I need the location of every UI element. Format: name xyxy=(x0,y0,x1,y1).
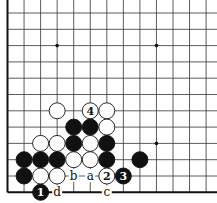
point-label-b: b xyxy=(70,169,78,183)
black-stone xyxy=(66,135,82,151)
move-number: 3 xyxy=(120,170,128,183)
white-stone-icon xyxy=(49,168,65,184)
white-stone-icon xyxy=(66,152,82,168)
white-stone-icon xyxy=(99,119,115,135)
white-stone-2: 2 xyxy=(99,168,115,184)
white-stone xyxy=(66,152,82,168)
white-stone xyxy=(49,135,65,151)
black-stone-icon xyxy=(99,152,115,168)
white-stone-icon xyxy=(82,152,98,168)
white-stone-icon xyxy=(33,168,49,184)
point-label-d: d xyxy=(53,185,61,199)
point-label-a: a xyxy=(87,169,94,183)
white-stone-4: 4 xyxy=(82,103,98,119)
white-stone xyxy=(33,168,49,184)
black-stone-icon xyxy=(82,119,98,135)
point-label-c: c xyxy=(103,185,110,199)
black-stone xyxy=(49,152,65,168)
black-stone-icon xyxy=(66,135,82,151)
go-board-svg: 4231 badc xyxy=(0,0,217,203)
go-board: 4231 badc xyxy=(0,0,217,203)
white-stone xyxy=(82,152,98,168)
move-number: 1 xyxy=(37,186,45,199)
black-stone xyxy=(132,152,148,168)
black-stone xyxy=(66,119,82,135)
black-stone-icon xyxy=(49,152,65,168)
black-stone-icon xyxy=(99,135,115,151)
black-stone xyxy=(99,135,115,151)
white-stone xyxy=(33,135,49,151)
move-number: 2 xyxy=(103,170,111,183)
black-stone-1: 1 xyxy=(33,184,49,200)
black-stone-3: 3 xyxy=(115,168,131,184)
white-stone-icon xyxy=(33,135,49,151)
star-point-icon xyxy=(155,142,159,146)
black-stone-icon xyxy=(16,168,32,184)
white-stone-icon xyxy=(49,103,65,119)
white-stone xyxy=(49,168,65,184)
black-stone xyxy=(16,168,32,184)
white-stone xyxy=(99,103,115,119)
white-stone xyxy=(82,135,98,151)
black-stone-icon xyxy=(33,152,49,168)
stones: 4231 xyxy=(16,103,148,201)
black-stone-icon xyxy=(132,152,148,168)
black-stone-icon xyxy=(66,119,82,135)
black-stone xyxy=(16,152,32,168)
white-stone-icon xyxy=(49,135,65,151)
white-stone-icon xyxy=(82,135,98,151)
black-stone xyxy=(99,152,115,168)
black-stone xyxy=(82,119,98,135)
black-stone xyxy=(33,152,49,168)
star-point-icon xyxy=(155,44,159,48)
star-point-icon xyxy=(55,44,59,48)
black-stone-icon xyxy=(16,152,32,168)
white-stone-icon xyxy=(99,103,115,119)
move-number: 4 xyxy=(86,105,94,118)
white-stone xyxy=(99,119,115,135)
white-stone xyxy=(49,103,65,119)
